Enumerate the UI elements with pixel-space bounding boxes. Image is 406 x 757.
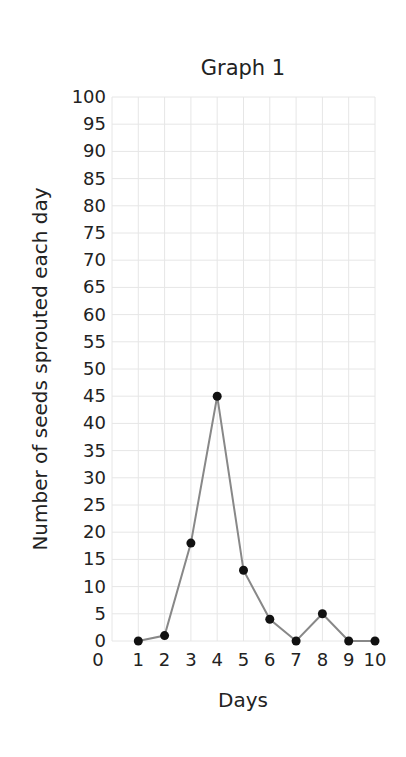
data-point-marker	[292, 637, 301, 646]
data-point-marker	[239, 566, 248, 575]
y-tick-label: 55	[83, 331, 106, 352]
y-tick-label: 30	[83, 467, 106, 488]
x-tick-label: 7	[290, 649, 301, 670]
y-tick-label: 10	[83, 576, 106, 597]
y-tick-label: 15	[83, 548, 106, 569]
y-tick-label: 35	[83, 440, 106, 461]
x-tick-label: 4	[211, 649, 222, 670]
y-tick-label: 25	[83, 494, 106, 515]
x-tick-label: 3	[185, 649, 196, 670]
y-tick-label: 45	[83, 385, 106, 406]
y-axis-ticks: 0510152025303540455055606570758085909510…	[72, 86, 106, 651]
line-chart: 0510152025303540455055606570758085909510…	[0, 0, 406, 757]
series-line	[138, 396, 375, 641]
y-tick-label: 80	[83, 195, 106, 216]
y-tick-label: 50	[83, 358, 106, 379]
y-tick-label: 40	[83, 412, 106, 433]
data-point-marker	[265, 615, 274, 624]
y-tick-label: 65	[83, 276, 106, 297]
y-tick-label: 95	[83, 113, 106, 134]
data-point-marker	[134, 637, 143, 646]
y-tick-label: 60	[83, 304, 106, 325]
data-point-marker	[318, 609, 327, 618]
grid-lines	[112, 97, 375, 641]
x-tick-label: 5	[238, 649, 249, 670]
y-tick-label: 100	[72, 86, 106, 107]
data-point-marker	[186, 539, 195, 548]
data-point-marker	[344, 637, 353, 646]
y-tick-label: 85	[83, 168, 106, 189]
y-tick-label: 20	[83, 521, 106, 542]
y-tick-label: 0	[95, 630, 106, 651]
data-point-marker	[213, 392, 222, 401]
x-tick-label: 0	[92, 649, 103, 670]
y-tick-label: 70	[83, 249, 106, 270]
x-tick-label: 8	[317, 649, 328, 670]
x-axis-ticks: 012345678910	[92, 649, 386, 670]
data-point-marker	[371, 637, 380, 646]
data-series	[134, 392, 380, 646]
x-tick-label: 9	[343, 649, 354, 670]
x-tick-label: 6	[264, 649, 275, 670]
x-tick-label: 1	[133, 649, 144, 670]
x-tick-label: 2	[159, 649, 170, 670]
y-tick-label: 5	[95, 603, 106, 624]
y-tick-label: 75	[83, 222, 106, 243]
data-point-marker	[160, 631, 169, 640]
x-tick-label: 10	[364, 649, 387, 670]
y-tick-label: 90	[83, 140, 106, 161]
